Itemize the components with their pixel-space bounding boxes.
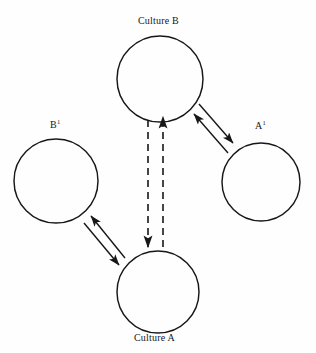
node-label-b-prime: B1	[50, 120, 60, 130]
node-label-a-prime: A1	[255, 121, 266, 131]
node-circle-culture-a[interactable]	[117, 251, 199, 333]
node-circle-a-prime[interactable]	[222, 143, 300, 221]
node-label-culture-a: Culture A	[134, 333, 175, 343]
node-circle-culture-b[interactable]	[117, 36, 203, 122]
node-label-b-prime-superscript: 1	[57, 118, 60, 125]
node-label-a-prime-superscript: 1	[262, 119, 265, 126]
connector-culture-b-to-a-prime	[194, 104, 233, 153]
node-circle-b-prime[interactable]	[14, 139, 98, 223]
node-circles	[14, 36, 300, 333]
arrow-culture-b-to-a-prime	[199, 104, 233, 143]
diagram-canvas: Culture B B1 A1 Culture A	[0, 0, 316, 353]
connector-culture-a-to-b-prime	[84, 216, 125, 265]
node-label-culture-b: Culture B	[138, 16, 179, 26]
node-label-b-prime-base: B	[50, 119, 57, 130]
connector-culture-b-to-culture-a-dashed	[148, 117, 163, 247]
arrow-a-prime-to-culture-b	[194, 114, 228, 153]
diagram-graphics	[0, 0, 316, 353]
